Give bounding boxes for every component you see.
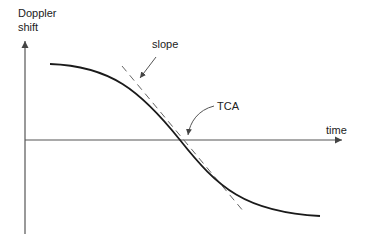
y-axis-label-line2: shift	[18, 21, 38, 33]
x-axis-label: time	[326, 124, 347, 136]
tca-label: TCA	[217, 100, 239, 112]
tca-pointer-arrow	[188, 106, 214, 135]
tangent-slope-line	[122, 66, 244, 212]
y-axis-label-line1: Doppler	[18, 7, 57, 19]
doppler-diagram	[0, 0, 365, 241]
slope-label: slope	[152, 38, 178, 50]
slope-pointer-arrow	[140, 57, 156, 78]
